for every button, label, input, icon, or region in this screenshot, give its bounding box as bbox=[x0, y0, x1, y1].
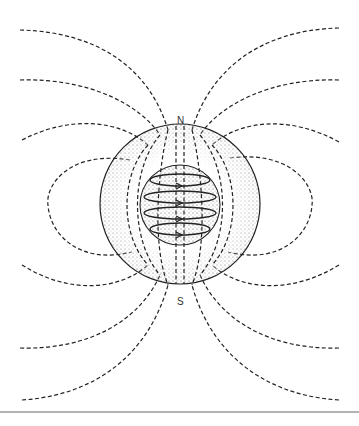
inner-core bbox=[140, 165, 220, 245]
north-pole-label: N bbox=[177, 115, 184, 126]
south-pole-label: S bbox=[177, 296, 184, 307]
dipole-field-diagram: N S bbox=[0, 0, 359, 426]
